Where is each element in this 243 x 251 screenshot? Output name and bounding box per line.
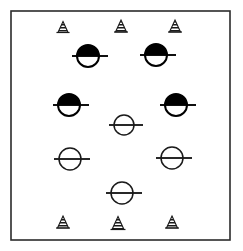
- hatched-triangle-icon: [57, 216, 68, 228]
- open-circle-marker: [156, 147, 192, 169]
- hatched-triangle-icon: [166, 216, 177, 228]
- figure-root: [0, 0, 243, 251]
- open-circle-marker: [109, 115, 143, 135]
- diagram-canvas: [0, 0, 243, 251]
- open-circle-marker: [106, 182, 142, 204]
- triangle-marker: [56, 22, 69, 33]
- triangle-marker: [168, 20, 182, 32]
- triangle-marker: [111, 217, 126, 230]
- hatched-triangle-icon: [169, 20, 180, 32]
- half-filled-circle-marker: [140, 44, 176, 66]
- triangle-marker: [56, 216, 70, 228]
- hatched-triangle-icon: [58, 22, 68, 33]
- half-filled-circle-marker: [53, 94, 89, 116]
- hatched-triangle-icon: [115, 20, 126, 32]
- triangle-marker: [114, 20, 128, 32]
- open-circle-marker: [54, 148, 90, 170]
- triangle-marker: [165, 216, 179, 228]
- hatched-triangle-icon: [112, 217, 124, 230]
- marker-series-layer: [53, 20, 196, 230]
- half-filled-circle-marker: [160, 94, 196, 116]
- half-filled-circle-marker: [72, 45, 108, 67]
